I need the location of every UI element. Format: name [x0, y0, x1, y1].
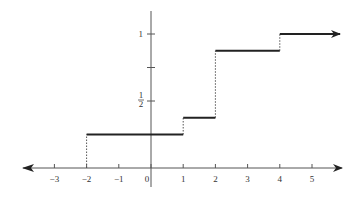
x-tick-label: −1	[114, 174, 124, 184]
step-function-chart: −3−2−1012345 121	[0, 0, 359, 200]
dashed-jumps	[87, 34, 280, 168]
svg-text:2: 2	[139, 99, 144, 109]
x-tick-label: 5	[310, 174, 315, 184]
x-tick-label: 1	[181, 174, 186, 184]
x-tick-label: 4	[278, 174, 283, 184]
y-axis-ticks: 121	[138, 29, 155, 109]
x-tick-label: 2	[213, 174, 218, 184]
y-tick-label: 1	[139, 29, 144, 39]
x-tick-label: −3	[50, 174, 60, 184]
x-tick-label: 3	[245, 174, 250, 184]
step-segments	[87, 34, 340, 135]
y-tick-label: 12	[138, 90, 144, 109]
x-tick-label: −2	[82, 174, 92, 184]
x-tick-label: 0	[145, 174, 150, 184]
axes	[22, 11, 342, 187]
x-axis-ticks: −3−2−1012345	[50, 164, 315, 184]
